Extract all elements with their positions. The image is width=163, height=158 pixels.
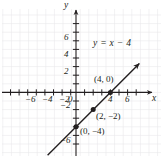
- x-axis-label: x: [152, 94, 156, 104]
- y-tick-label-4: 4: [64, 50, 69, 59]
- x-tick-label-6: 6: [125, 95, 130, 104]
- y-tick-label-neg2: −2: [60, 101, 71, 110]
- x-tick-label-neg4: −4: [42, 95, 53, 104]
- point-2-neg2: [91, 107, 96, 112]
- y-tick-label-neg6: −6: [60, 136, 71, 145]
- y-axis-label: y: [64, 1, 68, 11]
- point-label-4-0: (4, 0): [94, 75, 114, 84]
- graph-figure: y x y = x − 4 −6 −4 −2 0 4 6 6 4 2 −2 −6…: [0, 0, 163, 158]
- x-tick-label-4: 4: [108, 95, 113, 104]
- point-label-2-neg2: (2, −2): [96, 112, 121, 121]
- x-tick-label-neg6: −6: [25, 95, 36, 104]
- y-tick-label-2: 2: [64, 67, 69, 76]
- equation-label: y = x − 4: [93, 39, 131, 49]
- point-0-neg4: [74, 124, 79, 129]
- point-label-0-neg4: (0, −4): [80, 127, 105, 136]
- y-tick-label-6: 6: [64, 33, 69, 42]
